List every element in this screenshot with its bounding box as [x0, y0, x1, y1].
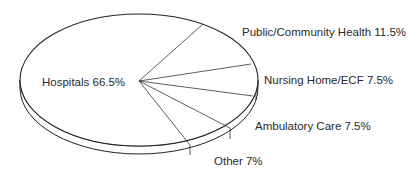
label-public-text: Public/Community Health 11.5%	[242, 26, 406, 38]
label-ambulatory-care: Ambulatory Care 7.5%	[255, 120, 371, 133]
label-nursing-home: Nursing Home/ECF 7.5%	[264, 74, 393, 87]
label-nursing-text: Nursing Home/ECF 7.5%	[264, 74, 393, 86]
label-other: Other 7%	[214, 155, 263, 168]
label-public-community-health: Public/Community Health 11.5%	[242, 26, 406, 39]
label-hospitals-text: Hospitals 66.5%	[42, 76, 125, 88]
label-hospitals: Hospitals 66.5%	[42, 76, 125, 89]
label-ambulatory-text: Ambulatory Care 7.5%	[255, 120, 371, 132]
label-other-text: Other 7%	[214, 155, 263, 167]
